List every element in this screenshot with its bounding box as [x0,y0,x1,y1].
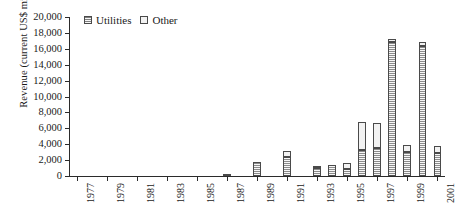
y-tick-label: 10,000 [6,92,62,102]
x-tick-mark [167,177,168,181]
bar-segment-other [343,163,351,169]
y-tick-label: 6,000 [6,123,62,133]
bar-segment-utilities [343,169,351,176]
bar-segment-other [388,39,396,41]
bar-segment-other [313,166,321,168]
x-tick-mark [287,177,288,181]
legend-swatch-utilities-icon [84,16,92,24]
x-tick-mark [77,177,78,181]
x-tick-mark [227,177,228,181]
bar-segment-utilities [328,165,336,176]
bar-column [313,17,321,176]
bar-segment-other [373,123,381,148]
x-tick-label: 1983 [176,183,186,223]
x-tick-label: 1977 [86,183,96,223]
bar-segment-other [403,145,411,152]
y-tick-label: 20,000 [6,12,62,22]
x-tick-mark [137,177,138,181]
x-tick-label: 1989 [266,183,276,223]
bar-column [343,17,351,176]
x-tick-label: 1995 [356,183,366,223]
bar-segment-utilities [358,150,366,176]
x-tick-label: 1993 [326,183,336,223]
y-tick-label: 2,000 [6,155,62,165]
x-tick-label: 1991 [296,183,306,223]
bar-segment-other [434,146,442,153]
x-tick-label: 2001 [446,183,456,223]
bar-segment-utilities [253,162,261,176]
bar-column [373,17,381,176]
bar-segment-utilities [373,148,381,176]
bar-column [328,17,336,176]
legend-entry-utilities: Utilities [84,14,131,26]
x-tick-mark [347,177,348,181]
bar-segment-utilities [283,157,291,176]
bar-column [253,17,261,176]
x-tick-mark [197,177,198,181]
bar-segment-other [283,151,291,157]
x-tick-label: 1997 [386,183,396,223]
x-tick-label: 1981 [146,183,156,223]
bar-segment-utilities [419,46,427,176]
bar-segment-other [419,42,427,45]
y-tick-label: 16,000 [6,44,62,54]
x-tick-label: 1987 [236,183,246,223]
legend-swatch-other-icon [140,16,148,24]
x-tick-label: 1985 [206,183,216,223]
bar-column [358,17,366,176]
y-tick-label: 0 [6,171,62,181]
bar-column [388,17,396,176]
bar-segment-utilities [223,174,231,176]
y-tick-label: 14,000 [6,60,62,70]
x-tick-label: 1999 [416,183,426,223]
x-tick-label: 1979 [116,183,126,223]
bar-segment-utilities [403,152,411,176]
x-tick-mark [377,177,378,181]
legend-label: Utilities [96,14,131,26]
bar-segment-utilities [313,168,321,176]
bar-segment-other [358,122,366,150]
bar-column [283,17,291,176]
bar-column [434,17,442,176]
legend-entry-other: Other [140,14,177,26]
bar-column [223,17,231,176]
x-tick-mark [317,177,318,181]
y-tick-label: 4,000 [6,139,62,149]
bar-segment-utilities [388,42,396,176]
bar-column [419,17,427,176]
plot-area [69,17,445,176]
y-tick-label: 12,000 [6,76,62,86]
chart-legend: UtilitiesOther [84,14,178,26]
bar-column [403,17,411,176]
bar-segment-utilities [434,153,442,176]
x-tick-mark [407,177,408,181]
y-tick-label: 8,000 [6,107,62,117]
x-tick-mark [257,177,258,181]
y-tick-label: 18,000 [6,28,62,38]
x-tick-mark [107,177,108,181]
x-tick-mark [437,177,438,181]
legend-label: Other [152,14,177,26]
